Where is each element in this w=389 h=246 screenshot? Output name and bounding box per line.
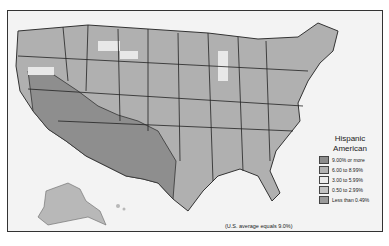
legend-swatch <box>319 156 329 164</box>
legend-item: 0.50 to 2.99% <box>319 185 381 194</box>
legend-title: Hispanic American <box>319 134 381 154</box>
legend-item: Less than 0.49% <box>319 195 381 204</box>
legend-item: 6.00 to 8.99% <box>319 165 381 174</box>
legend-swatch <box>319 166 329 174</box>
legend-item: 3.00 to 5.99% <box>319 175 381 184</box>
legend-item: 9.00% or more <box>319 155 381 164</box>
map-frame: Hispanic American 9.00% or more 6.00 to … <box>7 10 383 232</box>
legend-swatch <box>319 186 329 194</box>
alaska-shape <box>38 183 106 225</box>
hawaii-shape <box>116 204 120 208</box>
legend: Hispanic American 9.00% or more 6.00 to … <box>319 134 381 204</box>
us-average-note: (U.S. average equals 9.0%) <box>225 223 293 229</box>
legend-swatch <box>319 196 329 204</box>
legend-swatch <box>319 176 329 184</box>
